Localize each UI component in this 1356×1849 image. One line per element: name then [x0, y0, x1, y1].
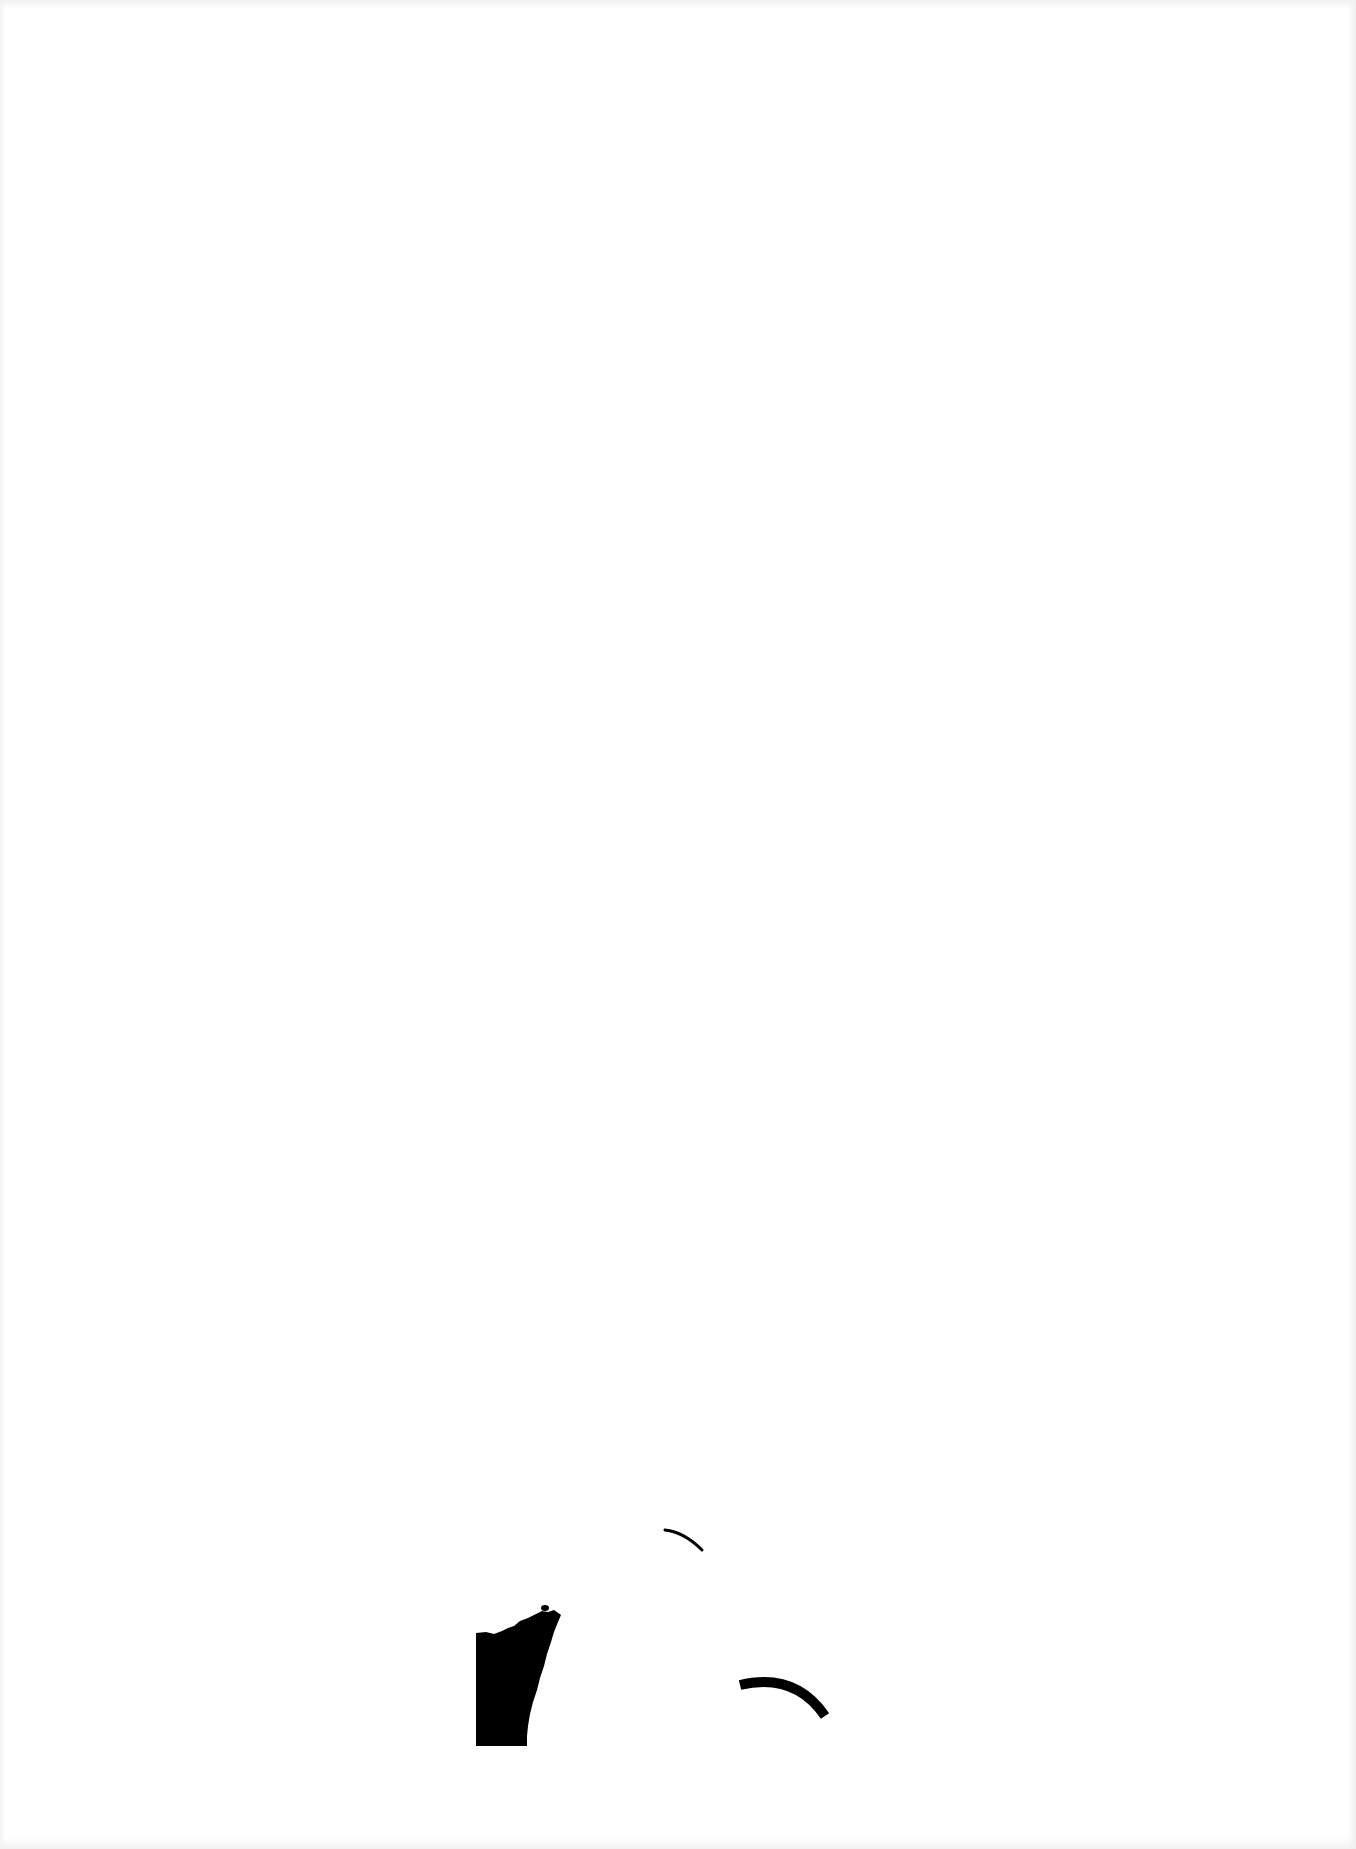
blank-scanned-page: [0, 0, 1356, 1849]
lower-arc: [740, 1682, 825, 1716]
ink-marks: [0, 0, 1356, 1849]
small-dot: [541, 1605, 549, 1611]
upper-arc: [665, 1530, 702, 1550]
block-shape: [476, 1610, 561, 1746]
